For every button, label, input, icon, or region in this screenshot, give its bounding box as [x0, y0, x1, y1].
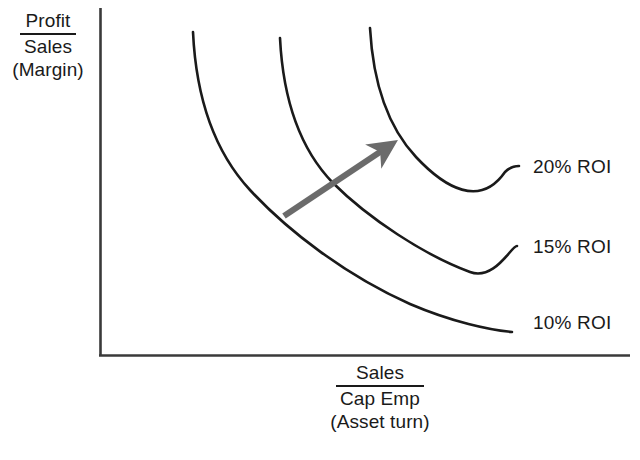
- x-axis-note: (Asset turn): [300, 411, 460, 433]
- x-axis-numerator: Sales: [336, 362, 424, 387]
- x-axis-fraction: Sales Cap Emp: [336, 362, 424, 410]
- y-axis-note: (Margin): [2, 59, 94, 81]
- y-axis-numerator: Profit: [20, 10, 76, 35]
- x-axis-denominator: Cap Emp: [336, 387, 424, 410]
- roi-curve-label-20: 20% ROI: [533, 156, 612, 178]
- y-axis-fraction: Profit Sales: [20, 10, 76, 58]
- roi-curve-label-10: 10% ROI: [533, 312, 612, 334]
- roi-curve-20: [370, 28, 519, 191]
- y-axis-denominator: Sales: [20, 35, 76, 58]
- improvement-arrow: [284, 150, 383, 216]
- roi-chart: Profit Sales (Margin) Sales Cap Emp (Ass…: [0, 0, 640, 460]
- x-axis-label: Sales Cap Emp (Asset turn): [300, 362, 460, 433]
- roi-curve-10: [193, 32, 512, 332]
- roi-curve-15: [280, 38, 517, 273]
- y-axis-label: Profit Sales (Margin): [2, 10, 94, 81]
- roi-curve-label-15: 15% ROI: [533, 236, 612, 258]
